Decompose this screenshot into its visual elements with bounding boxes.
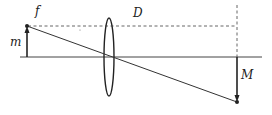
- lens-diagram: f D m M: [0, 0, 272, 115]
- chief-ray: [27, 26, 237, 102]
- focal-label: f: [34, 4, 42, 18]
- image-arrow: [235, 57, 240, 104]
- object-height-label: m: [10, 35, 21, 49]
- distance-label: D: [132, 6, 143, 20]
- object-arrow: [25, 24, 30, 57]
- stray-dot: [79, 29, 80, 30]
- image-height-label: M: [240, 68, 254, 82]
